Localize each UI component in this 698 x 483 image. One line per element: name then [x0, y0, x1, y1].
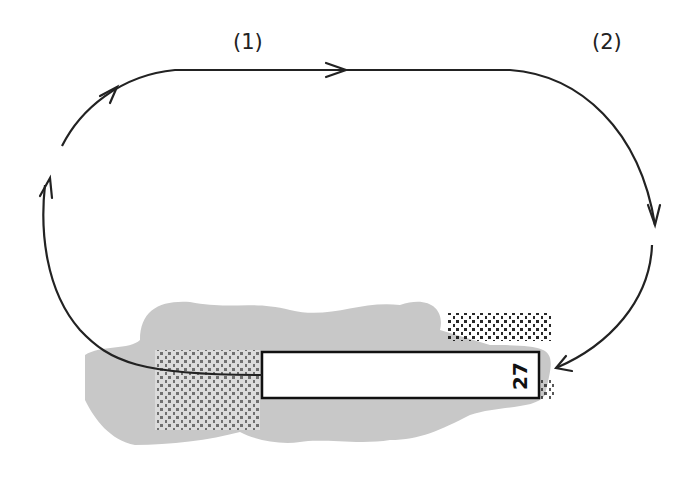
- traffic-pattern-diagram: [0, 0, 698, 483]
- runway-number: 27: [508, 362, 532, 390]
- arrow-icon: [40, 178, 52, 198]
- runway: [262, 352, 539, 398]
- arrow-icon: [100, 87, 117, 103]
